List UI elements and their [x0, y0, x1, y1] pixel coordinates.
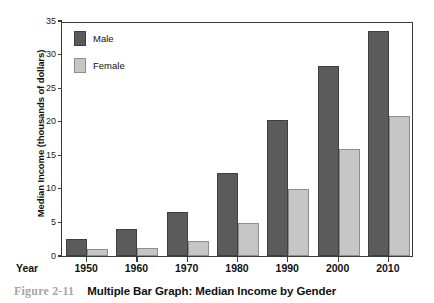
y-axis-title: Median Income (thousands of dollars): [35, 16, 46, 252]
legend-item-male: Male: [74, 31, 125, 46]
bar-male-1960: [116, 229, 137, 256]
y-tick-label: 30: [46, 50, 56, 59]
bar-male-1990: [267, 120, 288, 256]
legend-swatch-male-icon: [74, 31, 86, 46]
x-axis-label-1990: 1990: [276, 262, 299, 274]
y-tick-label: 35: [46, 17, 56, 26]
bar-male-1980: [217, 173, 238, 256]
bar-group-1990: [263, 23, 313, 256]
bar-female-1990: [288, 189, 309, 256]
bar-female-2010: [389, 116, 410, 256]
figure-caption: Figure 2-11 Multiple Bar Graph: Median I…: [14, 284, 336, 299]
y-tick-label: 10: [46, 184, 56, 193]
bar-group-1970: [163, 23, 213, 256]
x-axis-label-2010: 2010: [376, 262, 399, 274]
figure-container: Median Income (thousands of dollars) 051…: [0, 0, 434, 303]
y-tick-mark: [58, 20, 62, 21]
bar-group-2010: [364, 23, 414, 256]
y-tick-label: 15: [46, 151, 56, 160]
y-tick-label: 25: [46, 84, 56, 93]
caption-title: Multiple Bar Graph: Median Income by Gen…: [87, 285, 336, 297]
x-axis-labels: 1950196019701980199020002010: [61, 262, 413, 278]
bar-male-2000: [318, 66, 339, 256]
x-axis-label-1980: 1980: [225, 262, 248, 274]
bar-female-2000: [339, 149, 360, 256]
caption-number: Figure 2-11: [14, 284, 74, 299]
legend-label-female: Female: [93, 60, 125, 71]
x-axis-label-2000: 2000: [326, 262, 349, 274]
y-tick-label: 20: [46, 117, 56, 126]
bar-group-2000: [313, 23, 363, 256]
legend-item-female: Female: [74, 58, 125, 73]
bar-group-1980: [213, 23, 263, 256]
x-axis-label-1960: 1960: [125, 262, 148, 274]
bar-female-1960: [137, 248, 158, 256]
bar-male-1950: [66, 239, 87, 256]
y-tick-label: 0: [51, 252, 56, 261]
bar-male-2010: [368, 31, 389, 256]
legend: Male Female: [74, 31, 125, 85]
bar-male-1970: [167, 212, 188, 256]
x-axis-label-1950: 1950: [74, 262, 97, 274]
bar-female-1970: [188, 241, 209, 256]
bar-female-1950: [87, 249, 108, 256]
legend-label-male: Male: [93, 33, 114, 44]
plot-area: 05101520253035 Male Female: [61, 22, 413, 257]
x-axis-name: Year: [16, 262, 38, 274]
bar-female-1980: [238, 223, 259, 256]
legend-swatch-female-icon: [74, 58, 86, 73]
x-axis-label-1970: 1970: [175, 262, 198, 274]
y-tick-label: 5: [51, 218, 56, 227]
